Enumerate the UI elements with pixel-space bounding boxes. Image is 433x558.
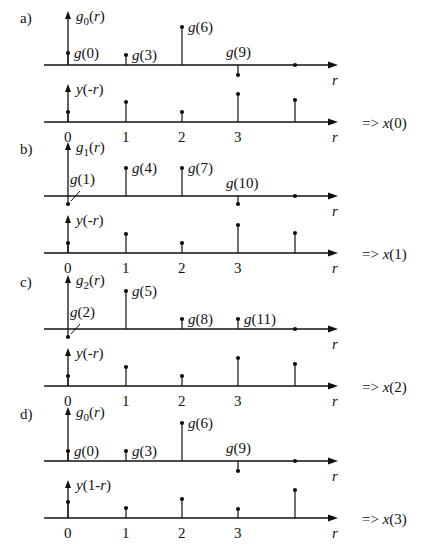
- stem-label: g(11): [244, 311, 276, 328]
- panel-label: d): [20, 406, 33, 423]
- stem: [293, 98, 297, 122]
- tick-label: 0: [64, 525, 72, 541]
- bottom-plot: y(-r)0123r: [44, 212, 338, 276]
- tick-label: 1: [122, 393, 130, 409]
- stem: [293, 327, 297, 331]
- bottom-plot: y(-r)0123r: [44, 81, 338, 145]
- arrowhead-icon: [328, 250, 338, 257]
- stem-label: g(5): [132, 283, 157, 300]
- panel-c: c)g2(r)g(2)g(5)g(8)g(11)ry(-r)0123r=> x(…: [20, 272, 407, 409]
- arrowhead-icon: [65, 348, 71, 356]
- stem: [180, 374, 184, 386]
- stem: [236, 317, 240, 329]
- axis-label-r: r: [332, 129, 338, 145]
- stem: [124, 449, 128, 461]
- tick-label: 2: [178, 129, 186, 145]
- stem: [180, 166, 184, 196]
- tick-label: 3: [234, 129, 242, 145]
- stem: [236, 196, 240, 206]
- tick-label: 1: [122, 525, 130, 541]
- axis-label-r: r: [332, 468, 338, 484]
- tick-label: 0: [64, 260, 72, 276]
- result-label: => x(2): [362, 379, 407, 396]
- axis-label-r: r: [332, 336, 338, 352]
- bottom-plot: y(-r)0123r: [44, 345, 338, 409]
- stem: [293, 459, 297, 463]
- stem: [66, 196, 70, 206]
- tick-label: 0: [64, 129, 72, 145]
- polyphase-stem-diagram: a)g0(r)g(0)g(3)g(6)g(9)ry(-r)0123r=> x(0…: [0, 0, 433, 558]
- tick-label: 3: [234, 260, 242, 276]
- stem: [293, 63, 297, 67]
- stem: [124, 166, 128, 196]
- stem: [180, 25, 184, 65]
- panel-label: c): [20, 274, 32, 291]
- axis-label-r: r: [332, 393, 338, 409]
- panel-label: a): [20, 10, 32, 27]
- stem: [66, 374, 70, 386]
- stem: [236, 507, 240, 518]
- top-plot: g1(r)g(1)g(4)g(7)g(10)r: [44, 139, 338, 219]
- arrowhead-icon: [328, 193, 338, 200]
- bottom-plot: y(1-r)0123r: [44, 477, 338, 541]
- arrowhead-icon: [328, 515, 338, 522]
- tick-label: 2: [178, 525, 186, 541]
- arrowhead-icon: [65, 275, 71, 283]
- stem: [236, 65, 240, 77]
- stem-label: g(10): [226, 175, 259, 192]
- axis-label-r: r: [332, 525, 338, 541]
- stem-label: g(6): [188, 19, 213, 36]
- arrowhead-icon: [65, 11, 71, 19]
- top-plot-title: g0(r): [76, 404, 105, 423]
- stem: [66, 500, 70, 518]
- arrowhead-icon: [65, 480, 71, 488]
- stem: [124, 365, 128, 386]
- arrowhead-icon: [65, 215, 71, 223]
- stem: [293, 231, 297, 253]
- tick-label: 3: [234, 393, 242, 409]
- stem-label: g(0): [74, 45, 99, 62]
- stem: [293, 362, 297, 386]
- stem: [180, 110, 184, 122]
- tick-label: 0: [64, 393, 72, 409]
- stem: [293, 488, 297, 518]
- top-plot: g2(r)g(2)g(5)g(8)g(11)r: [44, 272, 338, 352]
- stem: [124, 100, 128, 122]
- stem: [180, 317, 184, 329]
- arrowhead-icon: [328, 119, 338, 126]
- tick-label: 2: [178, 260, 186, 276]
- stem: [180, 421, 184, 461]
- stem-label: g(6): [188, 415, 213, 432]
- stem: [124, 53, 128, 65]
- stem: [180, 497, 184, 518]
- stem-label: g(7): [188, 160, 213, 177]
- stem: [236, 223, 240, 253]
- tick-label: 1: [122, 260, 130, 276]
- axis-label-r: r: [332, 260, 338, 276]
- panel-d: d)g0(r)g(0)g(3)g(6)g(9)ry(1-r)0123r=> x(…: [20, 404, 407, 541]
- stem: [66, 51, 70, 65]
- stem: [236, 92, 240, 122]
- arrowhead-icon: [328, 62, 338, 69]
- arrowhead-icon: [65, 84, 71, 92]
- top-plot-title: g2(r): [76, 272, 105, 291]
- top-plot: g0(r)g(0)g(3)g(6)g(9)r: [44, 404, 338, 484]
- stem: [124, 506, 128, 518]
- arrowhead-icon: [328, 383, 338, 390]
- axis-label-r: r: [332, 72, 338, 88]
- stem-label: g(1): [70, 171, 95, 188]
- panel-label: b): [20, 141, 33, 158]
- stem: [124, 232, 128, 253]
- top-plot-title: g0(r): [76, 8, 105, 27]
- stem: [66, 110, 70, 122]
- stem-label: g(9): [226, 44, 251, 61]
- arrowhead-icon: [328, 458, 338, 465]
- stem: [180, 241, 184, 253]
- stem-label: g(3): [132, 47, 157, 64]
- panel-a: a)g0(r)g(0)g(3)g(6)g(9)ry(-r)0123r=> x(0…: [20, 8, 407, 145]
- stem-label: g(8): [188, 311, 213, 328]
- stem: [293, 194, 297, 198]
- bottom-plot-title: y(-r): [74, 212, 104, 229]
- stem-label: g(9): [226, 440, 251, 457]
- bottom-plot-title: y(-r): [74, 81, 104, 98]
